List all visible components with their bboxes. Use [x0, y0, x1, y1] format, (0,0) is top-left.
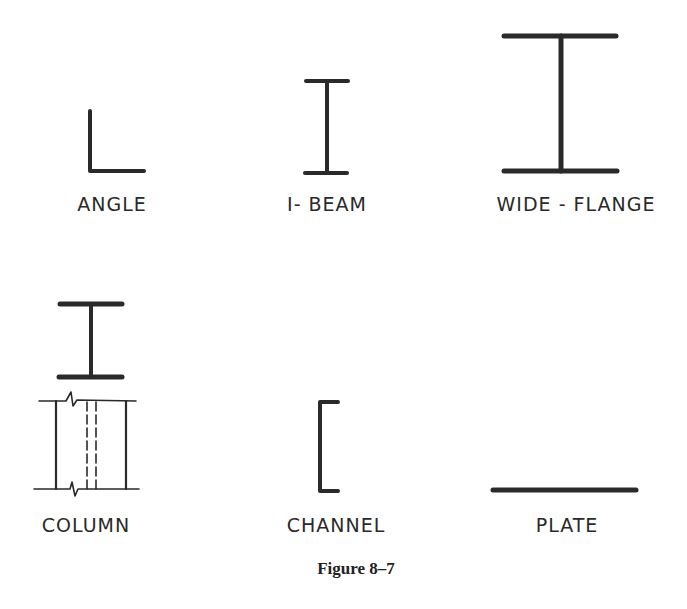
label-channel: CHANNEL — [287, 514, 386, 536]
label-i-beam: I- BEAM — [287, 193, 367, 215]
label-column: COLUMN — [42, 514, 130, 536]
column-section-icon — [34, 304, 139, 496]
angle-section-icon — [90, 111, 144, 171]
figure-caption: Figure 8–7 — [317, 559, 395, 579]
label-wide-flange: WIDE - FLANGE — [497, 193, 656, 215]
label-plate: PLATE — [536, 514, 599, 536]
label-angle: ANGLE — [77, 193, 147, 215]
channel-section-icon — [320, 402, 338, 491]
wide-flange-section-icon — [504, 36, 617, 171]
i-beam-section-icon — [305, 81, 348, 173]
